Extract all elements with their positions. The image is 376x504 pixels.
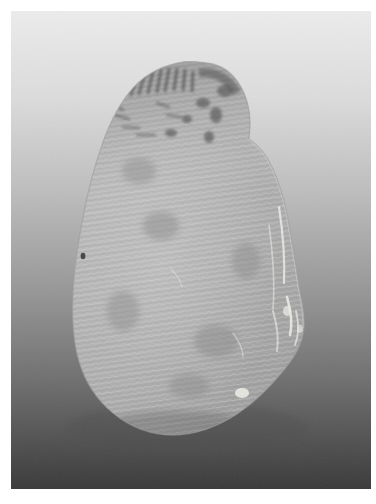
page-canvas: tuber single oval tuber with ridged surf…	[0, 0, 376, 504]
photograph	[11, 11, 371, 489]
film-grain	[11, 11, 371, 489]
photograph-canvas	[11, 11, 371, 489]
